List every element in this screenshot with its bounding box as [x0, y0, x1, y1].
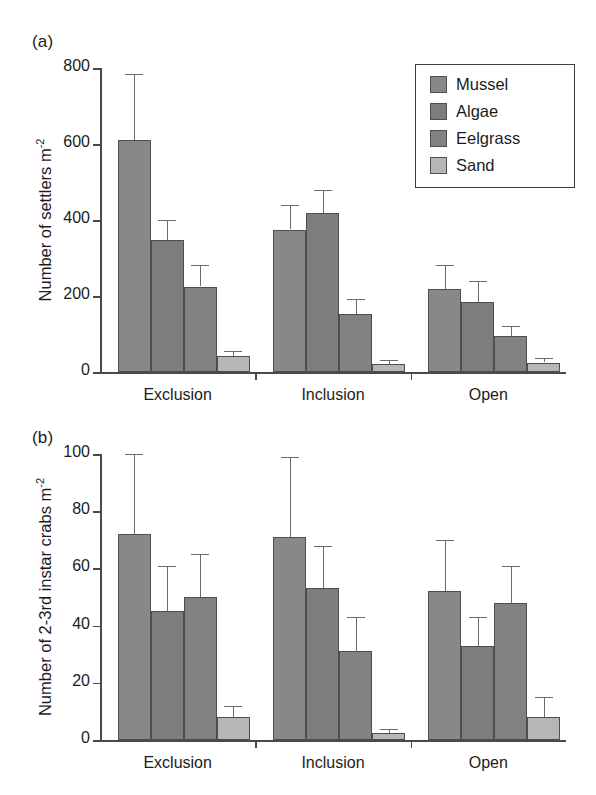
error-bar-line — [478, 281, 479, 302]
error-bar-line — [290, 457, 291, 537]
legend-label: Mussel — [456, 76, 508, 93]
bar-sand-exclusion — [217, 717, 250, 740]
legend-swatch-sand-icon — [430, 157, 447, 174]
bar-eelgrass-exclusion — [184, 287, 217, 373]
error-bar-line — [445, 265, 446, 289]
error-bar-cap — [314, 190, 332, 191]
error-bar-cap — [535, 697, 553, 698]
error-bar-line — [167, 566, 168, 612]
panel-a: (a) Number of settlers m-2 0200400600800… — [0, 0, 596, 418]
y-axis-tick-label: 40 — [22, 615, 90, 633]
y-axis-tick — [93, 296, 100, 298]
x-axis-label-exclusion: Exclusion — [100, 754, 255, 772]
error-bar-line — [134, 454, 135, 534]
error-bar-line — [445, 540, 446, 591]
panel-b-plot-area: 020406080100ExclusionInclusionOpen — [0, 418, 596, 795]
error-bar-cap — [347, 617, 365, 618]
y-axis-tick — [93, 220, 100, 222]
error-bar-cap — [502, 326, 520, 327]
error-bar-line — [323, 190, 324, 213]
error-bar-cap — [535, 358, 553, 359]
error-bar-cap — [158, 220, 176, 221]
error-bar-cap — [502, 566, 520, 567]
error-bar-cap — [158, 566, 176, 567]
y-axis-tick — [93, 683, 100, 685]
bar-mussel-inclusion — [273, 537, 306, 740]
legend-swatch-algae-icon — [430, 103, 447, 120]
error-bar-cap — [281, 457, 299, 458]
error-bar-line — [290, 205, 291, 230]
bar-mussel-exclusion — [118, 534, 151, 740]
error-bar-cap — [125, 454, 143, 455]
error-bar-cap — [314, 546, 332, 547]
x-axis-group-tick — [255, 372, 257, 380]
legend-label: Eelgrass — [456, 130, 520, 147]
error-bar-line — [511, 326, 512, 336]
y-axis-tick-label: 600 — [22, 133, 90, 151]
bar-mussel-open — [428, 591, 461, 740]
y-axis-tick — [93, 511, 100, 513]
x-axis-line — [100, 740, 566, 742]
legend: MusselAlgaeEelgrassSand — [415, 64, 575, 188]
x-axis-label-open: Open — [411, 754, 566, 772]
x-axis-group-tick — [411, 740, 413, 748]
error-bar-line — [323, 546, 324, 589]
error-bar-line — [233, 706, 234, 717]
bar-eelgrass-inclusion — [339, 651, 372, 740]
legend-label: Algae — [456, 103, 498, 120]
y-axis-tick-label: 800 — [22, 57, 90, 75]
bar-mussel-open — [428, 289, 461, 372]
x-axis-label-exclusion: Exclusion — [100, 386, 255, 404]
y-axis-tick-label: 20 — [22, 672, 90, 690]
bar-eelgrass-inclusion — [339, 314, 372, 372]
bar-sand-inclusion — [372, 733, 405, 740]
error-bar-cap — [224, 351, 242, 352]
y-axis-tick-label: 400 — [22, 209, 90, 227]
legend-swatch-eelgrass-icon — [430, 130, 447, 147]
bar-eelgrass-open — [494, 603, 527, 740]
bar-mussel-exclusion — [118, 140, 151, 372]
error-bar-cap — [191, 265, 209, 266]
y-axis-tick-label: 200 — [22, 285, 90, 303]
error-bar-line — [544, 697, 545, 717]
x-axis-group-tick — [411, 372, 413, 380]
y-axis-tick — [93, 568, 100, 570]
bar-sand-open — [527, 717, 560, 740]
error-bar-cap — [191, 554, 209, 555]
error-bar-cap — [281, 205, 299, 206]
bar-algae-exclusion — [151, 240, 184, 372]
y-axis-tick — [93, 372, 100, 374]
legend-swatch-mussel-icon — [430, 76, 447, 93]
bar-sand-inclusion — [372, 364, 405, 372]
bar-mussel-inclusion — [273, 230, 306, 373]
error-bar-cap — [436, 540, 454, 541]
y-axis-line — [100, 454, 102, 740]
error-bar-cap — [125, 74, 143, 75]
x-axis-label-inclusion: Inclusion — [255, 386, 410, 404]
bar-algae-exclusion — [151, 611, 184, 740]
panel-a-plot-area: 0200400600800ExclusionInclusionOpen — [0, 0, 596, 418]
bar-algae-open — [461, 302, 494, 372]
y-axis-tick — [93, 740, 100, 742]
bar-algae-inclusion — [306, 588, 339, 740]
error-bar-line — [200, 265, 201, 287]
error-bar-cap — [469, 617, 487, 618]
figure-container: (a) Number of settlers m-2 0200400600800… — [0, 0, 596, 795]
x-axis-label-inclusion: Inclusion — [255, 754, 410, 772]
error-bar-cap — [347, 299, 365, 300]
x-axis-group-tick — [255, 740, 257, 748]
error-bar-line — [134, 74, 135, 141]
bar-eelgrass-open — [494, 336, 527, 372]
bar-algae-open — [461, 646, 494, 740]
y-axis-tick — [93, 626, 100, 628]
panel-b: (b) Number of 2-3rd instar crabs m-2 020… — [0, 418, 596, 795]
legend-item-algae: Algae — [430, 103, 498, 120]
legend-item-mussel: Mussel — [430, 76, 508, 93]
error-bar-cap — [224, 706, 242, 707]
legend-item-eelgrass: Eelgrass — [430, 130, 520, 147]
error-bar-cap — [380, 729, 398, 730]
y-axis-tick — [93, 68, 100, 70]
x-axis-label-open: Open — [411, 386, 566, 404]
error-bar-line — [356, 299, 357, 314]
bar-algae-inclusion — [306, 213, 339, 372]
